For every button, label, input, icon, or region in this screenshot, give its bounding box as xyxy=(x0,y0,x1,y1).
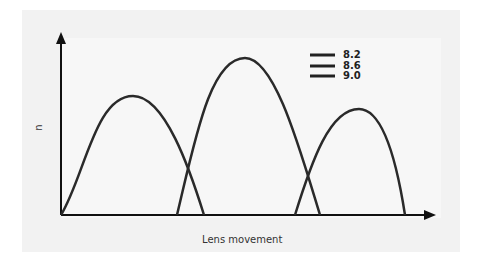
series-8.2-curve xyxy=(61,96,204,215)
y-axis-label: n xyxy=(33,124,44,130)
x-axis-label: Lens movement xyxy=(202,234,282,245)
legend-label-8.2: 8.2 xyxy=(343,49,361,60)
x-axis-arrow-icon xyxy=(424,210,436,220)
y-axis-arrow-icon xyxy=(56,32,66,44)
legend-label-9.0: 9.0 xyxy=(343,70,361,81)
series-9.0-curve xyxy=(295,109,405,215)
chart-canvas xyxy=(0,0,483,263)
series-8.6-curve xyxy=(177,58,320,215)
